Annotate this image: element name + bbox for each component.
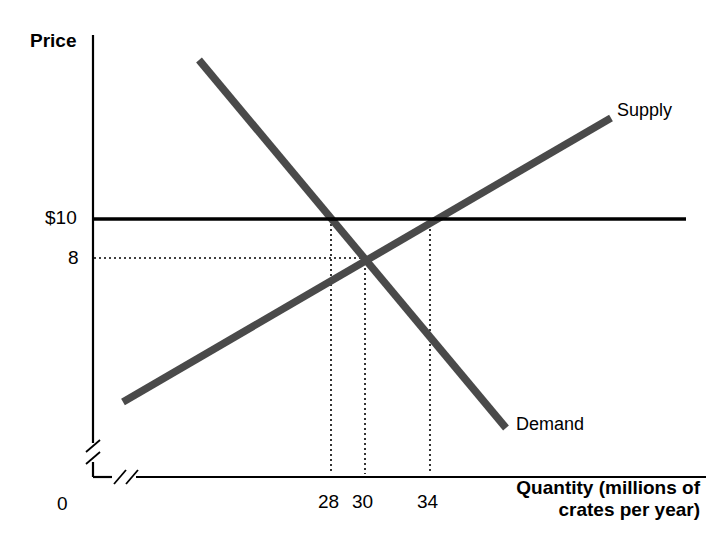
x-axis-title-line-2: crates per year) [558,499,700,520]
x-axis-title-line-1: Quantity (millions of [516,477,700,498]
supply-curve-label: Supply [617,100,672,121]
x-tick-label-30: 30 [352,491,373,513]
origin-label: 0 [57,493,68,515]
demand-curve-label: Demand [516,414,584,435]
x-tick-label-28: 28 [318,491,339,513]
y-axis-title: Price [30,30,76,52]
x-tick-label-34: 34 [417,491,438,513]
x-axis-break-mark-left [114,470,126,484]
demand-curve [199,60,506,428]
chart-canvas [0,0,716,551]
x-axis-title: Quantity (millions ofcrates per year) [466,477,700,522]
y-tick-label-8: 8 [68,247,79,269]
supply-curve [123,118,611,402]
supply-demand-chart: Price $10 8 0 28 30 34 Quantity (million… [0,0,716,551]
y-tick-label-10: $10 [45,207,77,229]
